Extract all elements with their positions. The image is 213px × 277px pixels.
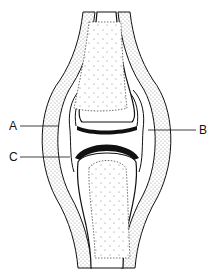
label-b: B — [199, 124, 207, 136]
synovial-joint-diagram — [0, 0, 213, 277]
articular-cartilage-upper — [77, 126, 137, 135]
label-a: A — [9, 120, 17, 132]
label-c: C — [9, 151, 18, 163]
